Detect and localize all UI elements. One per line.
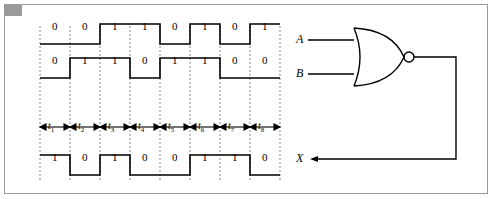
timing-diagram-svg bbox=[0, 0, 494, 199]
interval-label-1: t1 bbox=[48, 121, 54, 134]
waveform-a-bit-2: 1 bbox=[112, 21, 118, 32]
waveform-a-bit-0: 0 bbox=[52, 21, 58, 32]
waveform-x-bit-1: 0 bbox=[82, 152, 88, 163]
waveform-b-bit-2: 1 bbox=[112, 55, 118, 66]
gate-back-curve bbox=[354, 28, 360, 86]
screenshot-canvas: 0 0 1 1 0 1 0 1 0 1 1 0 1 1 0 0 1 0 1 0 … bbox=[0, 0, 494, 199]
output-feedback-wire bbox=[316, 57, 456, 159]
waveform-b bbox=[40, 58, 280, 78]
waveform-x-bit-2: 1 bbox=[112, 152, 118, 163]
interval-label-7: t7 bbox=[228, 121, 234, 134]
waveform-b-bit-5: 1 bbox=[202, 55, 208, 66]
interval-label-3: t3 bbox=[108, 121, 114, 134]
inversion-bubble bbox=[404, 52, 414, 62]
waveform-x-bit-6: 1 bbox=[232, 152, 238, 163]
grid-lines bbox=[40, 26, 280, 180]
waveform-a-bit-7: 1 bbox=[262, 21, 268, 32]
waveform-a-bit-3: 1 bbox=[142, 21, 148, 32]
waveform-x-bit-3: 0 bbox=[142, 152, 148, 163]
interval-arrows bbox=[40, 124, 280, 130]
waveform-b-bit-0: 0 bbox=[52, 55, 58, 66]
output-arrowhead bbox=[310, 156, 318, 162]
gate-top-arc bbox=[354, 28, 404, 57]
waveform-b-bit-3: 0 bbox=[142, 55, 148, 66]
waveform-a-bit-1: 0 bbox=[82, 21, 88, 32]
waveform-b-bit-1: 1 bbox=[82, 55, 88, 66]
waveform-a bbox=[40, 24, 280, 44]
interval-label-5: t5 bbox=[168, 121, 174, 134]
interval-label-2: t2 bbox=[78, 121, 84, 134]
waveform-x-bit-0: 1 bbox=[52, 152, 58, 163]
waveform-b-bit-4: 1 bbox=[172, 55, 178, 66]
waveform-x-bit-7: 0 bbox=[262, 152, 268, 163]
waveform-x-bit-4: 0 bbox=[172, 152, 178, 163]
circuit-output-x-label: X bbox=[296, 152, 303, 164]
waveform-x-bit-5: 1 bbox=[202, 152, 208, 163]
gate-bottom-arc bbox=[354, 57, 404, 86]
interval-label-8: t8 bbox=[258, 121, 264, 134]
circuit-input-a-label: A bbox=[296, 33, 303, 45]
waveform-b-bit-6: 0 bbox=[232, 55, 238, 66]
waveform-a-bit-6: 0 bbox=[232, 21, 238, 32]
waveform-a-bit-4: 0 bbox=[172, 21, 178, 32]
waveform-b-bit-7: 0 bbox=[262, 55, 268, 66]
waveform-a-bit-5: 1 bbox=[202, 21, 208, 32]
circuit-input-b-label: B bbox=[296, 67, 303, 79]
interval-label-4: t4 bbox=[138, 121, 144, 134]
nor-gate-circuit bbox=[308, 28, 456, 162]
interval-label-6: t6 bbox=[198, 121, 204, 134]
